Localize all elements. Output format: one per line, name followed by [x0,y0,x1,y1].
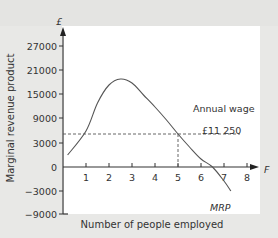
x-tick-label: 5 [175,172,181,183]
y-unit-label: £ [56,16,63,27]
x-tick-label: 4 [152,172,158,183]
x-unit-label: F [264,164,270,175]
y-axis-arrow-icon [60,27,66,36]
y-tick-label: 0 [51,162,57,173]
y-tick-label: 3000 [33,138,57,149]
y-tick-label: −3000 [25,186,57,197]
x-tick-label: 1 [83,172,89,183]
x-ticks: 12345678 [83,163,250,183]
y-tick-label: 9000 [33,113,57,124]
wage-amount-label: £11 250 [202,125,241,136]
y-axis-title: Marginal revenue product [5,54,16,183]
y-ticks: 270002100015000900030000−3000−9000 [25,41,63,220]
mrp-label: MRP [210,202,231,213]
chart-svg: £ F 270002100015000900030000−3000−9000 1… [0,0,278,238]
annual-wage-label: Annual wage [193,103,255,114]
x-tick-label: 8 [244,172,250,183]
x-tick-label: 3 [129,172,135,183]
y-tick-label: −9000 [25,209,57,220]
y-tick-label: 15000 [27,89,57,100]
x-tick-label: 2 [106,172,112,183]
x-tick-label: 6 [198,172,204,183]
y-tick-label: 21000 [27,65,57,76]
x-axis-title: Number of people employed [0,219,278,230]
y-tick-label: 27000 [27,41,57,52]
x-axis-arrow-icon [250,164,259,170]
